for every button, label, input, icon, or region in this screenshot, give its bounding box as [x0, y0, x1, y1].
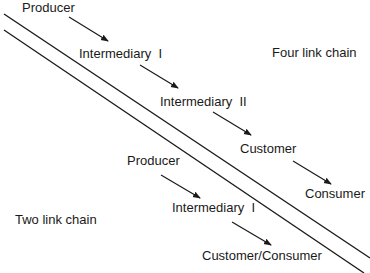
- four-link-node-intermediary-1: Intermediary I: [79, 47, 162, 61]
- two-link-node-intermediary-1: Intermediary I: [172, 201, 255, 215]
- arrow-icon: [232, 222, 271, 245]
- four-link-node-customer: Customer: [240, 142, 296, 156]
- two-link-node-producer: Producer: [127, 154, 180, 168]
- arrow-icon: [69, 17, 108, 41]
- two-link-chain-title: Two link chain: [15, 213, 97, 227]
- arrow-icon: [161, 175, 200, 198]
- four-link-node-intermediary-2: Intermediary II: [160, 95, 247, 109]
- arrow-icon: [213, 112, 251, 135]
- diagram-canvas: [0, 0, 370, 273]
- four-link-chain-title: Four link chain: [272, 46, 357, 60]
- four-link-node-consumer: Consumer: [305, 187, 365, 201]
- arrow-icon: [293, 161, 331, 184]
- arrow-icon: [140, 65, 178, 88]
- four-link-node-producer: Producer: [22, 1, 75, 15]
- two-link-node-customer-consumer: Customer/Consumer: [202, 249, 322, 263]
